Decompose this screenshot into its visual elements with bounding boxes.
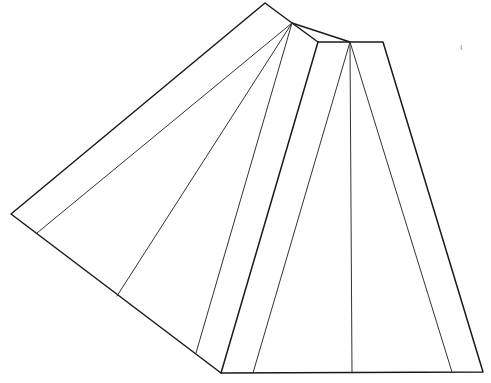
- skirt-pattern-drawing: [0, 0, 491, 383]
- fold-line-2: [117, 23, 292, 296]
- top-yoke-edge-2: [292, 23, 350, 42]
- fold-line-3: [196, 23, 292, 353]
- top-yoke-edge: [292, 23, 318, 42]
- fold-line-6: [350, 42, 452, 372]
- fold-line-4: [253, 42, 350, 373]
- fold-line-5: [350, 42, 352, 373]
- fold-line-1: [37, 23, 292, 233]
- tick-mark: ı: [460, 42, 463, 52]
- left-panel-outline: [11, 3, 292, 373]
